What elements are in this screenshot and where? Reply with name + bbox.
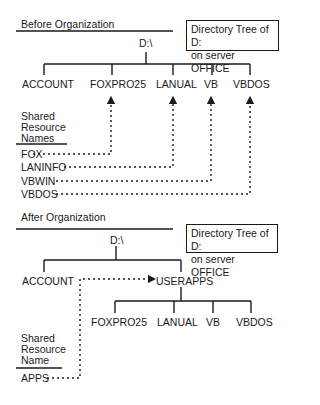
after-folder-account: ACCOUNT	[22, 275, 74, 287]
after-title: After Organization	[21, 211, 106, 223]
before-box-line2: on server OFFICE	[191, 49, 274, 75]
after-folder-userapps: USERAPPS	[156, 275, 213, 287]
after-folder-vb: VB	[206, 316, 220, 328]
before-shares-header-3: Names	[21, 132, 54, 144]
share-apps: APPS	[21, 372, 49, 384]
after-box-line1: Directory Tree of D:	[191, 227, 273, 253]
before-folder-lanual: LANUAL	[156, 78, 197, 90]
after-shares-header-3: Name	[21, 354, 49, 366]
share-vbdos: VBDOS	[21, 188, 58, 200]
after-folder-vbdos: VBDOS	[236, 316, 273, 328]
share-vbwin: VBWIN	[21, 175, 55, 187]
before-title: Before Organization	[21, 18, 114, 30]
share-laninfo: LANINFO	[21, 161, 67, 173]
after-root: D:\	[110, 234, 123, 246]
before-folder-vbdos: VBDOS	[233, 78, 270, 90]
share-fox: FOX	[21, 148, 43, 160]
before-folder-foxpro25: FOXPRO25	[90, 78, 146, 90]
before-info-box: Directory Tree of D: on server OFFICE	[186, 20, 279, 51]
after-info-box: Directory Tree of D: on server OFFICE	[186, 224, 278, 253]
before-box-line1: Directory Tree of D:	[191, 23, 274, 49]
after-folder-foxpro25: FOXPRO25	[91, 316, 147, 328]
before-folder-account: ACCOUNT	[22, 78, 74, 90]
before-root: D:\	[139, 37, 152, 49]
before-folder-vb: VB	[204, 78, 218, 90]
after-folder-lanual: LANUAL	[157, 316, 198, 328]
